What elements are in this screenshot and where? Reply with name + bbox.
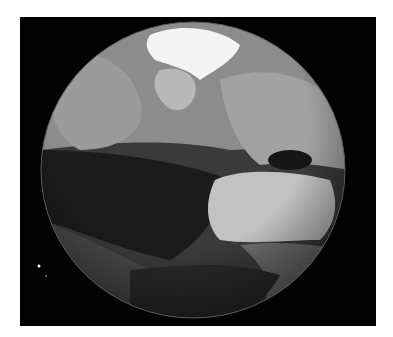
globe [0,0,393,337]
star [38,265,41,268]
star [45,275,47,277]
